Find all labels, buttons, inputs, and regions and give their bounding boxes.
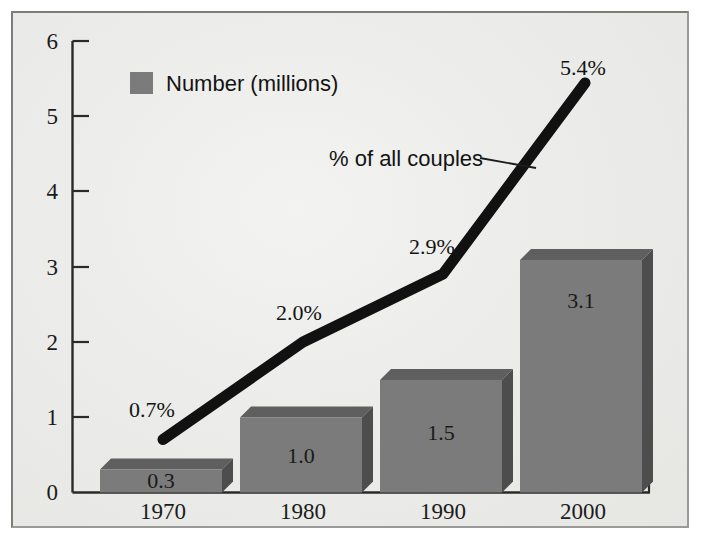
chart-canvas: 6 5 4 3 2 1 0 0.3 1.0	[11, 11, 689, 528]
bar-1980[interactable]: 1.0	[240, 407, 373, 493]
pct-label-1990: 2.9%	[409, 234, 455, 259]
bar-1980-value: 1.0	[287, 443, 315, 468]
figure-container: 6 5 4 3 2 1 0 0.3 1.0	[0, 0, 707, 540]
y-tick-label-0: 0	[47, 480, 59, 505]
line-series-annotation: % of all couples	[329, 146, 536, 171]
legend: Number (millions)	[130, 71, 338, 96]
bar-1990-value: 1.5	[427, 420, 455, 445]
legend-swatch-number-millions	[130, 72, 153, 94]
y-tick-label-3: 3	[47, 255, 59, 280]
pct-label-1980: 2.0%	[276, 300, 322, 325]
y-tick-labels: 6 5 4 3 2 1 0	[47, 29, 59, 505]
bar-2000-side	[642, 249, 653, 493]
bar-2000[interactable]: 3.1	[520, 249, 653, 493]
y-tick-label-5: 5	[47, 104, 59, 129]
y-tick-label-1: 1	[47, 405, 59, 430]
bar-1970-value: 0.3	[147, 468, 175, 493]
pct-label-1970: 0.7%	[129, 397, 175, 422]
pct-label-2000: 5.4%	[560, 55, 606, 80]
bar-1980-side	[362, 407, 373, 493]
legend-label-number-millions: Number (millions)	[166, 71, 338, 96]
x-tick-labels: 1970 1980 1990 2000	[140, 499, 606, 524]
y-tick-label-2: 2	[47, 330, 59, 355]
bar-1970[interactable]: 0.3	[100, 459, 233, 494]
bar-2000-top	[520, 249, 653, 260]
x-tick-label-2000: 2000	[560, 499, 606, 524]
bar-1990[interactable]: 1.5	[380, 369, 513, 493]
x-tick-label-1980: 1980	[280, 499, 326, 524]
x-tick-label-1970: 1970	[140, 499, 186, 524]
bar-1990-top	[380, 369, 513, 380]
x-tick-label-1990: 1990	[420, 499, 466, 524]
y-tick-label-4: 4	[47, 179, 59, 204]
y-tick-label-6: 6	[47, 29, 59, 54]
annotation-label: % of all couples	[329, 146, 483, 171]
bar-1990-side	[502, 369, 513, 493]
bar-2000-value: 3.1	[567, 288, 595, 313]
bar-1980-top	[240, 407, 373, 418]
